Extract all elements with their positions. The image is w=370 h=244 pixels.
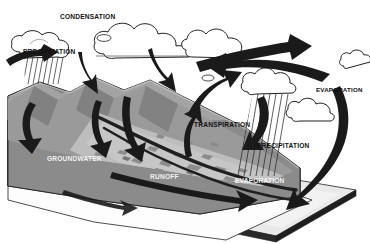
rain-left bbox=[23, 57, 63, 84]
label-precipitation-left: PRECIPITATION bbox=[23, 49, 76, 56]
label-evaporation-bottom: EVAPORATION bbox=[235, 178, 285, 185]
label-condensation: CONDENSATION bbox=[60, 14, 115, 21]
label-runoff: RUNOFF bbox=[150, 174, 179, 181]
label-evaporation-right: EVAPORATION bbox=[316, 87, 363, 93]
water-cycle-diagram: CONDENSATION PRECIPITATION EVAPORATION T… bbox=[0, 0, 370, 244]
label-precipitation-right: PRECIPITATION bbox=[257, 143, 310, 150]
diagram-canvas bbox=[0, 0, 370, 244]
cloud-small-sea bbox=[286, 98, 334, 121]
label-groundwater: GROUNDWATER bbox=[47, 156, 102, 163]
label-transpiration: TRANSPIRATION bbox=[194, 122, 250, 129]
